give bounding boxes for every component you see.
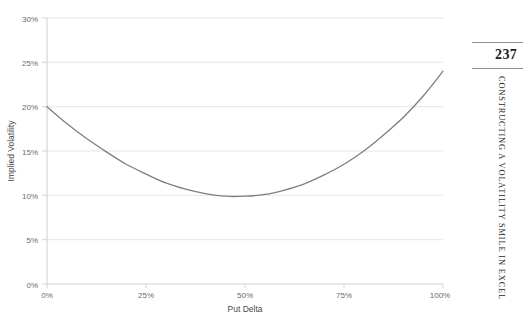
folio-rule-bottom: [472, 68, 523, 69]
book-page: 30% 25% 20% 15% 10% 5% 0% 0% 25% 50% 75%…: [0, 0, 523, 323]
y-tick-label-20: 20%: [22, 103, 38, 112]
x-axis-ticks: [47, 284, 443, 288]
y-axis-title: Implied Volatility: [6, 120, 16, 182]
x-tick-label-0: 0%: [41, 291, 53, 300]
y-axis-ticks: [42, 18, 47, 284]
y-tick-label-10: 10%: [22, 192, 38, 201]
y-tick-label-25: 25%: [22, 59, 38, 68]
volatility-smile-chart: 30% 25% 20% 15% 10% 5% 0% 0% 25% 50% 75%…: [0, 0, 460, 323]
x-tick-label-75: 75%: [336, 291, 352, 300]
x-tick-label-50: 50%: [237, 291, 253, 300]
x-tick-label-25: 25%: [138, 291, 154, 300]
y-tick-label-0: 0%: [26, 281, 38, 290]
x-tick-label-100: 100%: [430, 291, 450, 300]
chart-figure: 30% 25% 20% 15% 10% 5% 0% 0% 25% 50% 75%…: [0, 0, 460, 323]
running-head-title: CONSTRUCTING A VOLATILITY SMILE IN EXCEL: [497, 76, 506, 300]
y-tick-label-30: 30%: [22, 15, 38, 24]
folio-rule-top: [472, 42, 523, 43]
y-tick-label-5: 5%: [26, 236, 38, 245]
page-number: 237: [472, 47, 517, 63]
y-tick-label-15: 15%: [22, 148, 38, 157]
running-head-block: 237 CONSTRUCTING A VOLATILITY SMILE IN E…: [466, 0, 523, 323]
x-axis-title: Put Delta: [228, 304, 263, 314]
